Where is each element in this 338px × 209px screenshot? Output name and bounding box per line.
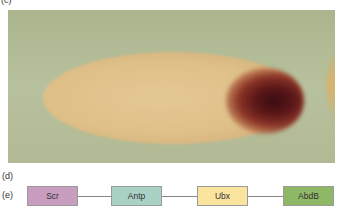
gene-label: Antp <box>128 191 146 201</box>
gene-label: Scr <box>46 191 59 201</box>
gene-box-abdb: AbdB <box>283 186 334 206</box>
gene-box-antp: Antp <box>111 186 162 206</box>
panel-label-c: (c) <box>1 0 12 5</box>
panel-label-d: (d) <box>2 172 13 181</box>
gene-box-ubx: Ubx <box>197 186 248 206</box>
panel-label-e: (e) <box>2 191 13 200</box>
gene-label: Ubx <box>215 191 230 201</box>
gene-box-scr: Scr <box>27 186 78 206</box>
posterior-stain <box>226 68 304 134</box>
embryo-photo <box>8 10 335 163</box>
gene-label: AbdB <box>298 191 319 201</box>
